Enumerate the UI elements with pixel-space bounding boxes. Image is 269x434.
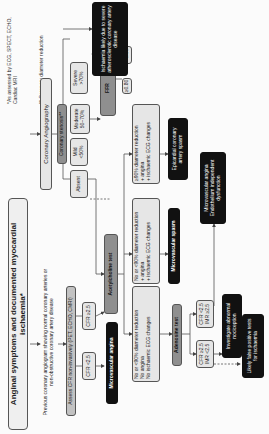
ach-epicardial-result: ≥90% diameter reduction + angina + ischa… [132,104,160,184]
title-box: Anginal symptoms and documented myocardi… [8,198,28,430]
ffr-high-box: ≥0.80 [122,78,132,94]
adenosine-test-box: Adenosine test [172,304,182,366]
acetylcholine-test-box: Acetylcholine test [104,234,118,314]
mild-box: Mild <50% [70,138,88,166]
adeno-normal-box: CFR ≥2.5 IMR <2.5 [196,340,214,368]
false-positive-box: Likely false positive tests for ischaemi… [242,314,264,378]
flowchart: Anginal symptoms and documented myocardi… [0,0,269,434]
adeno-abnormal-box: CFR <2.5 IMR ≥2.5 [196,300,214,328]
absent-box: Absent [70,170,88,198]
epicardial-spasm-box: Epicardial coronary artery spasm [168,118,188,180]
moderate-box: Moderate 50–70% [70,104,90,134]
footnote-assessed: *As assessed by ECG, SPECT, ECHO, Cardia… [6,4,18,104]
ach-negative-result: No or <90% diameter reduction No angina … [132,286,160,382]
assess-cfr-box: Assess CFR non-invasively (PET, ECHO, CM… [66,286,76,416]
cfr-lt-box: CFR <2.5 [82,352,96,380]
coronary-stenosis-box: Coronary stenosis** [57,104,67,164]
severe-box: Severe >70% [70,62,88,94]
ach-micro-result: No or <90% diameter reduction + angina +… [132,198,160,284]
previous-angiogram-box: Previous coronary angiogram showing norm… [40,262,58,422]
ischaemia-atherosclerotic-box: Ischaemia likely due to severe atheroscl… [92,2,128,76]
microvascular-spasm-box: Microvascular spasm [168,208,180,284]
coronary-angiography-box: Coronary Angiography [40,78,52,190]
microvascular-angina-endothelium-box: Microvascular angina Endothelium indepen… [200,152,226,224]
microvascular-angina-box: Microvascular angina [106,322,118,404]
investigate-nociception-box: Investigate abnormal nociception [222,294,242,358]
cfr-ge-box: CFR ≥2.5 [82,302,96,330]
